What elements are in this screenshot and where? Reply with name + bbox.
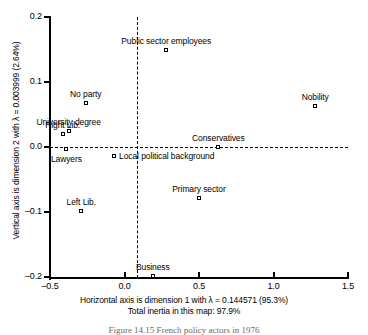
data-point-label: Nobility — [302, 93, 329, 102]
y-tick-mark — [44, 81, 50, 83]
data-point-marker — [61, 132, 65, 136]
data-point-label: Lawyers — [51, 155, 82, 164]
x-tick-mark — [49, 272, 51, 278]
x-tick-mark — [347, 272, 349, 278]
y-tick-label: 0.1 — [30, 77, 42, 86]
data-point-marker — [164, 48, 168, 52]
x-tick-label: 0.0 — [118, 282, 130, 291]
data-point-label: Conservatives — [192, 134, 245, 143]
data-point-marker — [151, 274, 155, 278]
x-tick-mark — [273, 272, 275, 278]
data-point-label: Public sector employees — [121, 37, 211, 46]
x-tick-mark — [124, 272, 126, 278]
data-point-label: Right Lib. — [45, 121, 80, 130]
y-tick-label: –0.1 — [25, 207, 42, 216]
correspondence-analysis-figure: 0.20.10.0–0.1–0.2 –0.50.00.51.01.5 Publi… — [0, 0, 368, 335]
zero-reference-line-horizontal — [50, 147, 348, 148]
figure-caption: Figure 14.15 French policy actors in 197… — [0, 325, 368, 335]
x-tick-label: –0.5 — [41, 282, 58, 291]
y-tick-label: –0.2 — [25, 272, 42, 281]
data-point-label: Business — [136, 263, 170, 272]
data-point-marker — [216, 145, 220, 149]
data-point-marker — [79, 209, 83, 213]
data-point-label: No party — [70, 90, 101, 99]
data-point-marker — [64, 147, 68, 151]
x-tick-label: 1.5 — [342, 282, 354, 291]
y-tick-label: 0.0 — [30, 142, 42, 151]
x-axis-title: Horizontal axis is dimension 1 with λ = … — [0, 295, 368, 305]
x-tick-label: 1.0 — [267, 282, 279, 291]
data-point-marker — [197, 196, 201, 200]
total-inertia-note: Total inertia in this map: 97.9% — [0, 306, 368, 316]
y-axis-title: Vertical axis is dimension 2 with λ = 0.… — [12, 1, 21, 281]
data-point-marker — [84, 101, 88, 105]
plot-area: 0.20.10.0–0.1–0.2 –0.50.00.51.01.5 Publi… — [0, 0, 368, 300]
zero-reference-line-vertical — [137, 17, 138, 278]
data-point-label: Primary sector — [172, 185, 225, 194]
y-tick-mark — [44, 146, 50, 148]
data-point-label: Left Lib. — [67, 198, 96, 207]
x-tick-mark — [198, 272, 200, 278]
data-point-marker — [112, 154, 116, 158]
y-tick-mark — [44, 16, 50, 18]
data-point-label: Local political background — [119, 152, 214, 161]
x-tick-label: 0.5 — [193, 282, 205, 291]
y-tick-mark — [44, 211, 50, 213]
y-axis-spine — [49, 16, 51, 280]
data-point-marker — [313, 104, 317, 108]
y-tick-label: 0.2 — [30, 12, 42, 21]
